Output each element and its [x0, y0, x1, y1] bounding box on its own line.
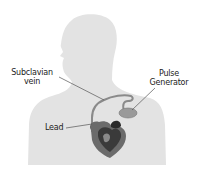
subclavian-label-line2: vein — [6, 77, 58, 86]
pulse-label-line2: Generator — [143, 78, 195, 87]
torso-illustration — [0, 0, 197, 181]
lead-label: Lead — [45, 123, 71, 132]
subclavian-label-line1: Subclavian — [6, 68, 58, 77]
subclavian-vein-label: Subclavian vein — [6, 68, 58, 86]
pulse-label-line1: Pulse — [143, 69, 195, 78]
pacemaker-diagram: Subclavian vein Pulse Generator Lead — [0, 0, 197, 181]
pulse-generator — [119, 108, 137, 118]
pulse-generator-label: Pulse Generator — [143, 69, 195, 87]
